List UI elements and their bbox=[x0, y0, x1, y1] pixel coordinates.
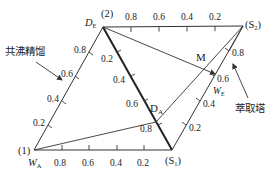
annotation-azeotropic-distillation: 共沸精馏 bbox=[5, 45, 45, 57]
vertex-s2-label: (S2) bbox=[245, 19, 262, 31]
right-tick-0.2: 0.2 bbox=[189, 123, 201, 133]
point-m-label: M bbox=[196, 51, 206, 63]
vertex-wa-label: WA bbox=[28, 157, 42, 169]
point-da-label: DA bbox=[150, 102, 163, 116]
line-s2-to-da bbox=[156, 26, 243, 122]
left-tick-0.8: 0.8 bbox=[74, 45, 86, 55]
vertex-2-label: (2) bbox=[101, 8, 114, 20]
diagonal-tick-0.6: 0.6 bbox=[126, 99, 138, 109]
top-tick-0.8: 0.8 bbox=[125, 12, 137, 22]
line-1-to-da bbox=[34, 122, 156, 150]
right-tick-0.6: 0.6 bbox=[217, 74, 229, 84]
left-edge-ticks bbox=[48, 52, 93, 128]
vertex-de-label: DE bbox=[84, 17, 97, 29]
we-axis-label: WE bbox=[213, 86, 225, 97]
annotation-left-arrow bbox=[36, 62, 62, 80]
vertex-s1-label: (S1) bbox=[165, 155, 182, 167]
bottom-edge-ticks bbox=[62, 145, 144, 150]
top-tick-0.6: 0.6 bbox=[153, 12, 165, 22]
bottom-tick-0.2: 0.2 bbox=[137, 158, 149, 168]
annotation-extraction-tower: 萃取塔 bbox=[235, 102, 266, 114]
top-tick-0.2: 0.2 bbox=[209, 12, 221, 22]
vertex-1-label: (1) bbox=[18, 145, 31, 157]
bottom-tick-0.6: 0.6 bbox=[82, 158, 94, 168]
left-tick-0.4: 0.4 bbox=[47, 94, 59, 104]
diagonal-tick-0.8: 0.8 bbox=[140, 124, 152, 134]
edge-top bbox=[103, 26, 243, 27]
ternary-diagram: 0.8 0.6 0.4 0.2 0.8 0.6 0.4 0.2 0.2 0.4 … bbox=[0, 0, 278, 182]
right-tick-0.8: 0.8 bbox=[232, 48, 244, 58]
bottom-tick-0.8: 0.8 bbox=[54, 158, 66, 168]
left-tick-0.6: 0.6 bbox=[61, 69, 73, 79]
right-tick-0.4: 0.4 bbox=[203, 99, 215, 109]
diagonal-tick-0.4: 0.4 bbox=[113, 75, 125, 85]
annotation-right-arrow bbox=[233, 64, 248, 98]
bottom-tick-0.4: 0.4 bbox=[110, 158, 122, 168]
top-tick-0.4: 0.4 bbox=[181, 12, 193, 22]
diagonal-tick-0.2: 0.2 bbox=[101, 54, 113, 64]
left-tick-0.2: 0.2 bbox=[33, 118, 45, 128]
